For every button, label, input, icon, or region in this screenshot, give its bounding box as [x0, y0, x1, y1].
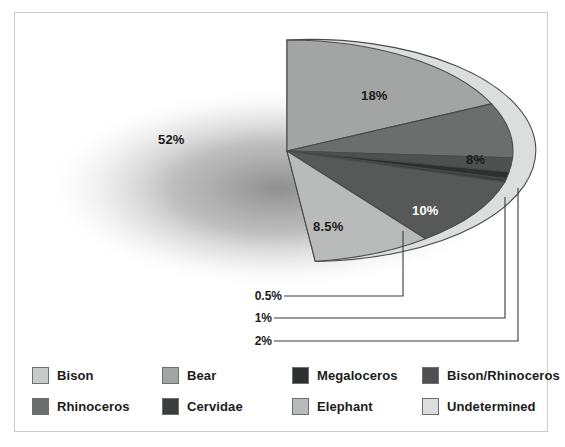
- legend-item-bison-rhinoceros[interactable]: Bison/Rhinoceros: [422, 367, 562, 384]
- legend-item-elephant[interactable]: Elephant: [292, 398, 422, 415]
- legend-item-bear[interactable]: Bear: [162, 367, 292, 384]
- legend-item-rhinoceros[interactable]: Rhinoceros: [32, 398, 162, 415]
- legend-swatch-bison-rhinoceros: [422, 367, 439, 384]
- legend-item-undetermined[interactable]: Undetermined: [422, 398, 562, 415]
- legend-swatch-cervidae: [162, 398, 179, 415]
- legend-swatch-undetermined: [422, 398, 439, 415]
- legend-swatch-bear: [162, 367, 179, 384]
- legend-label-undetermined: Undetermined: [447, 399, 536, 414]
- pie-svg: [0, 0, 565, 360]
- legend-label-bear: Bear: [187, 368, 216, 383]
- pie-plot-area: 18% 8% 10% 8.5% 52% 0.5% 1% 2%: [0, 0, 565, 360]
- callout-label-0-5: 0.5%: [236, 289, 282, 303]
- legend-swatch-bison: [32, 367, 49, 384]
- chart-legend: Bison Bear Megaloceros Bison/Rhinoceros …: [32, 360, 532, 422]
- pie-label-elephant: 8.5%: [313, 219, 343, 234]
- legend-label-elephant: Elephant: [317, 399, 373, 414]
- legend-item-cervidae[interactable]: Cervidae: [162, 398, 292, 415]
- pie-label-rhinoceros: 8%: [466, 152, 485, 167]
- legend-swatch-elephant: [292, 398, 309, 415]
- legend-swatch-megaloceros: [292, 367, 309, 384]
- callout-label-2: 2%: [236, 334, 272, 348]
- pie-label-cervidae-main: 10%: [412, 203, 439, 218]
- pie-label-bear: 18%: [361, 88, 388, 103]
- legend-label-bison: Bison: [57, 368, 94, 383]
- legend-swatch-rhinoceros: [32, 398, 49, 415]
- pie-label-undetermined: 52%: [158, 132, 185, 147]
- pie-chart-figure: 18% 8% 10% 8.5% 52% 0.5% 1% 2% Bison Bea…: [0, 0, 565, 447]
- callout-label-1: 1%: [236, 311, 272, 325]
- legend-label-cervidae: Cervidae: [187, 399, 243, 414]
- legend-label-rhinoceros: Rhinoceros: [57, 399, 130, 414]
- legend-label-bison-rhinoceros: Bison/Rhinoceros: [447, 368, 560, 383]
- legend-label-megaloceros: Megaloceros: [317, 368, 398, 383]
- legend-item-megaloceros[interactable]: Megaloceros: [292, 367, 422, 384]
- legend-item-bison[interactable]: Bison: [32, 367, 162, 384]
